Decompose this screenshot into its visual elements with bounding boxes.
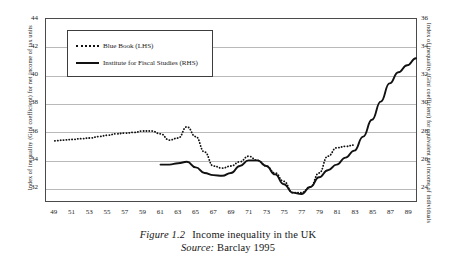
legend-swatch-dotted [75,41,101,50]
y-tick-right-32: 32 [421,70,437,79]
y-tick-left-44: 44 [22,14,38,23]
source-value: Barclay 1995 [217,242,275,253]
x-tick-71: 71 [242,207,256,217]
x-tick-87: 87 [383,207,397,217]
y-tick-left-38: 38 [22,98,38,107]
figure-caption: Figure 1.2Income inequality in the UK So… [0,228,456,254]
y-tick-right-24: 24 [421,183,437,192]
x-tick-53: 53 [82,207,96,217]
y-tick-right-36: 36 [421,14,437,23]
y-tick-left-42: 42 [22,42,38,51]
x-tick-85: 85 [366,207,380,217]
x-tick-59: 59 [135,207,149,217]
x-tick-55: 55 [100,207,114,217]
legend-item-blue-book: Blue Book (LHS) [75,37,205,54]
x-tick-61: 61 [153,207,167,217]
legend-item-ifs: Institute for Fiscal Studies (RHS) [75,54,205,71]
source-label: Source: [181,242,214,253]
legend-label-blue-book: Blue Book (LHS) [101,42,153,50]
y-tick-right-30: 30 [421,98,437,107]
y-tick-right-34: 34 [421,42,437,51]
x-tick-67: 67 [206,207,220,217]
y-axis-right-title-line1: Index of inequality (Gini coefficient) f… [426,23,433,223]
chart-legend: Blue Book (LHS) Institute for Fiscal Stu… [67,30,213,77]
y-tick-left-32: 32 [22,183,38,192]
x-tick-57: 57 [118,207,132,217]
x-tick-69: 69 [224,207,238,217]
y-tick-right-28: 28 [421,127,437,136]
x-tick-75: 75 [277,207,291,217]
x-tick-79: 79 [313,207,327,217]
x-tick-65: 65 [189,207,203,217]
x-tick-83: 83 [348,207,362,217]
x-tick-73: 73 [259,207,273,217]
series-line-ifs [161,58,416,194]
figure-number: Figure 1.2 [140,229,185,240]
x-tick-49: 49 [47,207,61,217]
figure-container: Index of inequality (Gini coefficient) f… [0,0,456,264]
y-tick-left-36: 36 [22,127,38,136]
x-tick-63: 63 [171,207,185,217]
legend-label-ifs: Institute for Fiscal Studies (RHS) [101,59,198,67]
y-tick-left-34: 34 [22,155,38,164]
y-tick-right-26: 26 [421,155,437,164]
x-tick-89: 89 [401,207,415,217]
series-line-blue-book [55,127,355,193]
y-tick-left-40: 40 [22,70,38,79]
x-tick-51: 51 [65,207,79,217]
x-tick-77: 77 [295,207,309,217]
x-tick-81: 81 [330,207,344,217]
figure-title: Income inequality in the UK [192,229,316,240]
legend-swatch-solid [75,58,101,67]
